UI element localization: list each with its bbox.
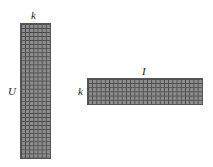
item-matrix-row-label: k (78, 86, 83, 97)
user-latent-factor-matrix (20, 23, 51, 159)
item-matrix-column-label: I (142, 66, 146, 77)
user-matrix-row-label: U (8, 86, 16, 97)
item-latent-factor-matrix (87, 78, 203, 105)
user-matrix-column-label: k (31, 10, 36, 21)
